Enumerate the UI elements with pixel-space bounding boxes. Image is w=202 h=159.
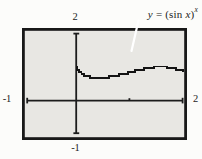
- equation-exponent: x: [194, 5, 198, 14]
- axis-label-y-min: -1: [65, 142, 86, 154]
- equation-function: sin: [169, 8, 182, 20]
- calculator-screen-plot: [0, 0, 202, 159]
- equation-label: y = (sin x)x: [104, 6, 198, 20]
- axis-label-x-max: 2: [189, 93, 202, 105]
- figure-canvas: y = (sin x)x 2 -1 2 -1: [0, 0, 202, 159]
- axis-label-x-min: -1: [0, 93, 14, 105]
- axis-label-y-max: 2: [68, 11, 82, 23]
- equation-equals: = (: [153, 8, 169, 20]
- plot-frame: [23, 29, 185, 138]
